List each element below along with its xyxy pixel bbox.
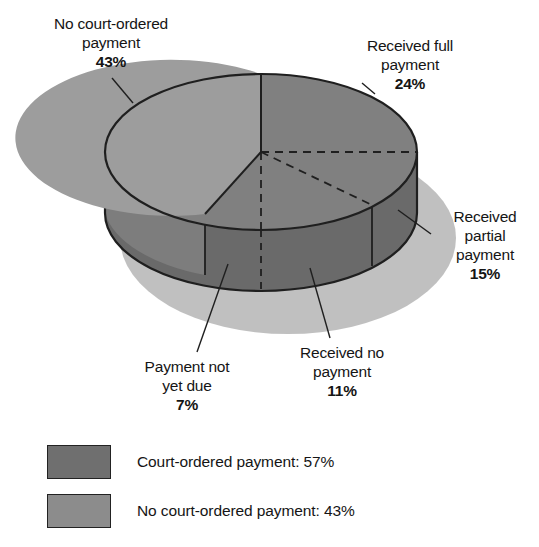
legend-label-no-court-ordered: No court-ordered payment: 43% (137, 502, 355, 520)
callout-received-no-payment: Received nopayment11% (277, 343, 407, 400)
legend-label-court-ordered: Court-ordered payment: 57% (137, 453, 334, 471)
callout-percentage: 15% (470, 265, 500, 282)
callout-received-partial-payment: Receivedpartialpayment15% (437, 207, 533, 283)
callout-percentage: 24% (395, 75, 425, 92)
legend-item-no-court-ordered: No court-ordered payment: 43% (47, 492, 507, 530)
legend-swatch-no-court-ordered (47, 494, 111, 528)
callout-no-court-ordered-payment: No court-orderedpayment43% (16, 14, 206, 71)
pie-chart-figure: No court-orderedpayment43% Received full… (0, 0, 539, 547)
callout-percentage: 7% (176, 396, 198, 413)
callout-percentage: 11% (327, 382, 357, 399)
legend-item-court-ordered: Court-ordered payment: 57% (47, 443, 507, 481)
callout-received-full-payment: Received fullpayment24% (335, 36, 485, 93)
callout-payment-not-yet-due: Payment notyet due7% (122, 357, 252, 414)
callout-percentage: 43% (96, 53, 126, 70)
chart-legend: Court-ordered payment: 57% No court-orde… (47, 443, 507, 541)
legend-swatch-court-ordered (47, 445, 111, 479)
